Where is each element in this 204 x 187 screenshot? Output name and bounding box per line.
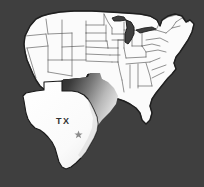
map-figure: TX [0, 0, 204, 187]
capital-star-icon [74, 130, 83, 139]
us-map-svg [0, 0, 204, 187]
texas-state-label: TX [56, 117, 70, 126]
